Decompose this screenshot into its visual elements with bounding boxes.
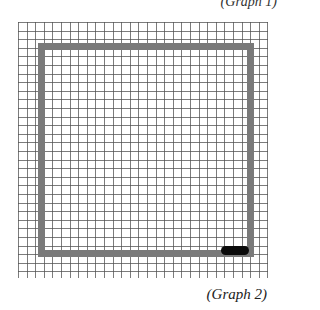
figure-caption: (Graph 2)	[207, 286, 267, 303]
square-outline	[38, 43, 254, 257]
black-marker-stroke	[221, 246, 249, 255]
cropped-heading-text: (Graph 1)	[221, 0, 277, 10]
